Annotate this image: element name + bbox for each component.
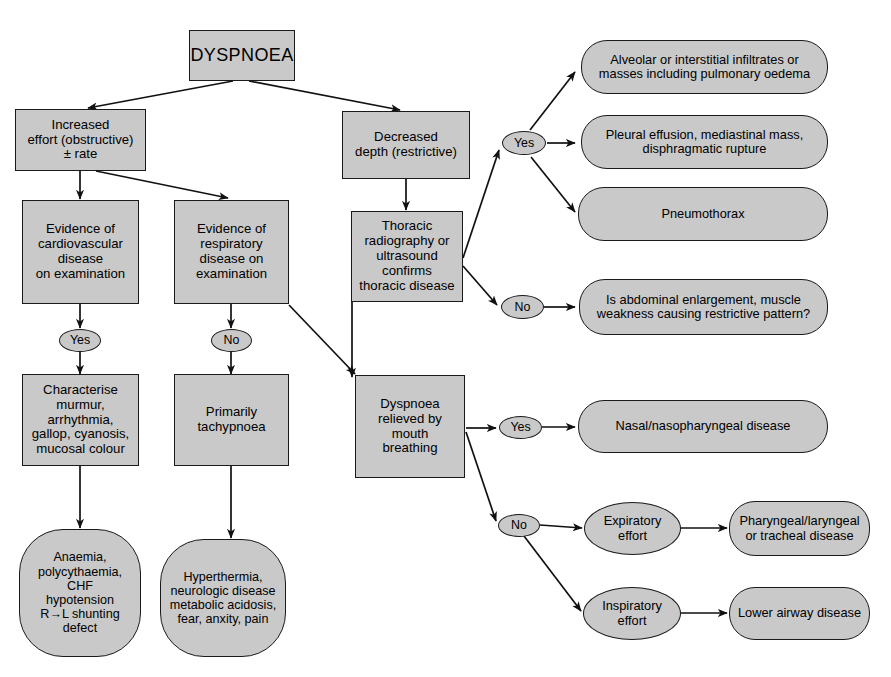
node-hyperthermia-outcome: Hyperthermia, neurologic disease metabol… xyxy=(160,539,286,657)
node-expiratory-effort: Expiratory effort xyxy=(584,502,681,555)
node-lower-airway-disease: Lower airway disease xyxy=(729,587,870,640)
decision-mouth-yes: Yes xyxy=(499,416,542,439)
node-increased-effort: Increased effort (obstructive) ± rate xyxy=(15,109,146,171)
node-alveolar-infiltrates: Alveolar or interstitial infiltrates or … xyxy=(581,40,828,94)
node-thoracic-imaging: Thoracic radiography or ultrasound confi… xyxy=(351,211,463,302)
node-evidence-cardiovascular: Evidence of cardiovascular disease on ex… xyxy=(22,200,139,304)
decision-thoracic-no: No xyxy=(501,295,544,319)
node-anaemia-outcome: Anaemia, polycythaemia, CHF hypotension … xyxy=(19,529,141,657)
node-abdominal-enlargement: Is abdominal enlargement, muscle weaknes… xyxy=(579,279,828,335)
node-dyspnoea-mouth-breathing: Dyspnoea relieved by mouth breathing xyxy=(355,375,465,478)
node-pharyngeal-disease: Pharyngeal/laryngeal or tracheal disease xyxy=(729,501,870,556)
figure-canvas: DYSPNOEA Increased effort (obstructive) … xyxy=(0,0,891,677)
node-primarily-tachypnoea: Primarily tachypnoea xyxy=(174,374,289,466)
node-nasal-disease: Nasal/nasopharyngeal disease xyxy=(578,400,828,453)
decision-thoracic-yes: Yes xyxy=(502,131,546,155)
decision-mouth-no: No xyxy=(498,514,540,537)
node-dyspnoea: DYSPNOEA xyxy=(189,30,295,81)
node-pneumothorax: Pneumothorax xyxy=(578,187,828,241)
node-pleural-effusion: Pleural effusion, mediastinal mass, disp… xyxy=(581,115,828,169)
node-decreased-depth: Decreased depth (restrictive) xyxy=(342,111,470,179)
node-inspiratory-effort: Inspiratory effort xyxy=(583,587,681,640)
decision-respiratory-no: No xyxy=(211,329,252,352)
node-characterise: Characterise murmur, arrhythmia, gallop,… xyxy=(22,374,139,466)
node-evidence-respiratory: Evidence of respiratory disease on exami… xyxy=(174,200,289,304)
decision-cardiovascular-yes: Yes xyxy=(59,329,101,352)
